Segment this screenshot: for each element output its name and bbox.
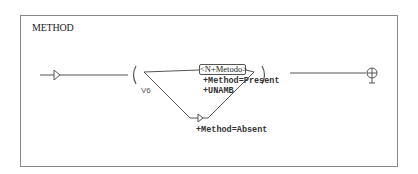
variable-label: V6	[141, 86, 151, 95]
bypass-arrow-icon	[198, 114, 203, 122]
open-paren	[134, 66, 137, 84]
node-output-method-present: +Method=Present	[203, 76, 280, 86]
start-arrow-icon	[40, 70, 128, 80]
bypass-path	[144, 72, 198, 118]
graph-node-metodo[interactable]: <N+Metodo>	[199, 64, 246, 75]
end-terminal-icon	[367, 68, 377, 83]
node-output-unamb: +UNAMB	[203, 86, 234, 96]
bypass-output-method-absent: +Method=Absent	[196, 125, 267, 135]
